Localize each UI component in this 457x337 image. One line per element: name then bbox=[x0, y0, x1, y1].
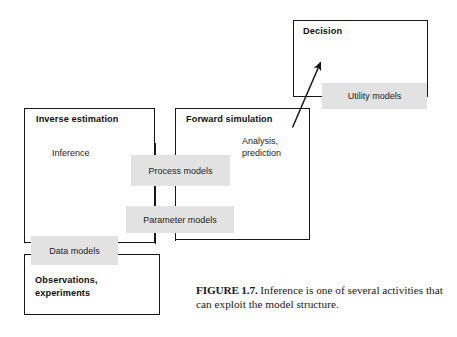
utility-models-box: Utility models bbox=[322, 83, 427, 109]
analysis-label-line2: prediction bbox=[242, 148, 281, 159]
parameter-models-label: Parameter models bbox=[143, 215, 217, 225]
utility-models-label: Utility models bbox=[348, 91, 402, 101]
inference-label: Inference bbox=[52, 148, 90, 159]
figure-1-7-diagram: Utility models Process models Parameter … bbox=[0, 0, 457, 337]
figure-caption-number: FIGURE 1.7. bbox=[196, 284, 258, 296]
connector-process-parameter-right bbox=[175, 184, 176, 208]
figure-caption: FIGURE 1.7. Inference is one of several … bbox=[196, 283, 448, 311]
connector-process-parameter-left bbox=[155, 184, 156, 208]
parameter-models-box: Parameter models bbox=[126, 206, 234, 233]
process-models-label: Process models bbox=[148, 166, 212, 176]
data-models-box: Data models bbox=[31, 236, 118, 265]
forward-simulation-title: Forward simulation bbox=[186, 114, 273, 124]
data-models-label: Data models bbox=[49, 246, 100, 256]
inverse-estimation-title: Inverse estimation bbox=[36, 114, 118, 124]
observations-title-line1: Observations, bbox=[35, 275, 98, 285]
process-models-box: Process models bbox=[131, 155, 230, 186]
decision-title: Decision bbox=[303, 26, 342, 36]
observations-title-line2: experiments bbox=[35, 288, 90, 298]
analysis-label-line1: Analysis, bbox=[242, 136, 278, 147]
